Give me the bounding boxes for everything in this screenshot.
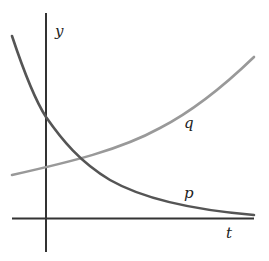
curve-q xyxy=(12,57,254,175)
curve-p xyxy=(12,36,254,215)
y-axis-label: y xyxy=(54,22,64,40)
chart-canvas: y q p t xyxy=(0,0,269,261)
curve-q-label: q xyxy=(184,114,194,132)
x-axis-label: t xyxy=(226,224,233,242)
curve-p-label: p xyxy=(184,184,194,202)
chart: y q p t xyxy=(0,0,269,261)
